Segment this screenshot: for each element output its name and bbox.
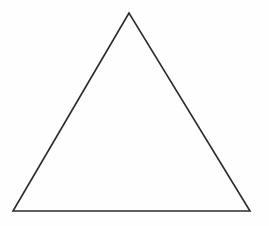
figure-container bbox=[0, 0, 269, 226]
canvas-background bbox=[0, 0, 269, 226]
triangle-diagram-canvas bbox=[0, 0, 269, 226]
